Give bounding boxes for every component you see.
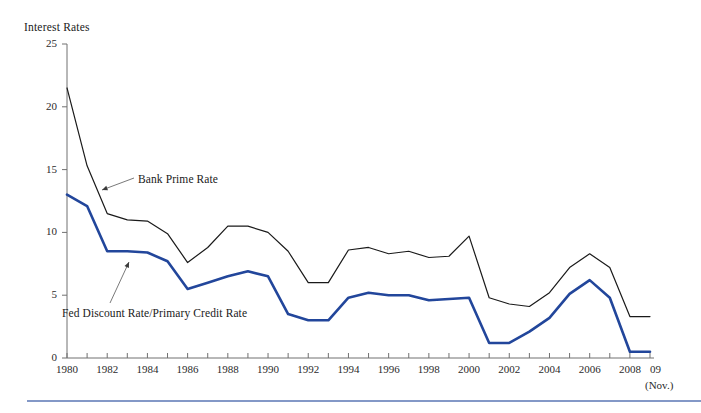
x-tick-label: 1984	[125, 363, 169, 375]
series-line-fed-discount-rate	[67, 195, 650, 352]
x-axis-end-note: (Nov.)	[645, 379, 673, 391]
x-tick-label: 1980	[45, 363, 89, 375]
annotation-leader-lines	[102, 178, 134, 303]
series-line-bank-prime-rate	[67, 88, 650, 317]
x-tick-label: 1998	[407, 363, 451, 375]
x-tick-label: 1992	[286, 363, 330, 375]
x-axis-end-label: 09	[650, 363, 661, 375]
x-tick-label: 2000	[447, 363, 491, 375]
y-tick-label: 0	[25, 351, 57, 363]
x-tick-label: 1986	[166, 363, 210, 375]
series-annotation-fed-discount-rate: Fed Discount Rate/Primary Credit Rate	[62, 307, 247, 319]
chart-plot-area	[0, 0, 701, 413]
y-tick-label: 5	[25, 288, 57, 300]
x-tick-label: 2002	[487, 363, 531, 375]
x-tick-label: 1994	[326, 363, 370, 375]
series-annotation-bank-prime-rate: Bank Prime Rate	[138, 173, 218, 185]
x-tick-label: 2008	[608, 363, 652, 375]
x-tick-label: 2004	[527, 363, 571, 375]
interest-rates-chart: Interest Rates 0510152025 19801982198419…	[0, 0, 701, 413]
x-tick-label: 1982	[85, 363, 129, 375]
y-tick-label: 10	[25, 225, 57, 237]
y-tick-label: 25	[25, 37, 57, 49]
annotation-arrowhead	[102, 186, 108, 191]
x-tick-label: 1988	[206, 363, 250, 375]
annotation-leader-line	[110, 262, 129, 303]
x-tick-label: 1990	[246, 363, 290, 375]
y-tick-label: 20	[25, 100, 57, 112]
x-tick-label: 1996	[367, 363, 411, 375]
y-tick-label: 15	[25, 163, 57, 175]
x-tick-label: 2006	[568, 363, 612, 375]
